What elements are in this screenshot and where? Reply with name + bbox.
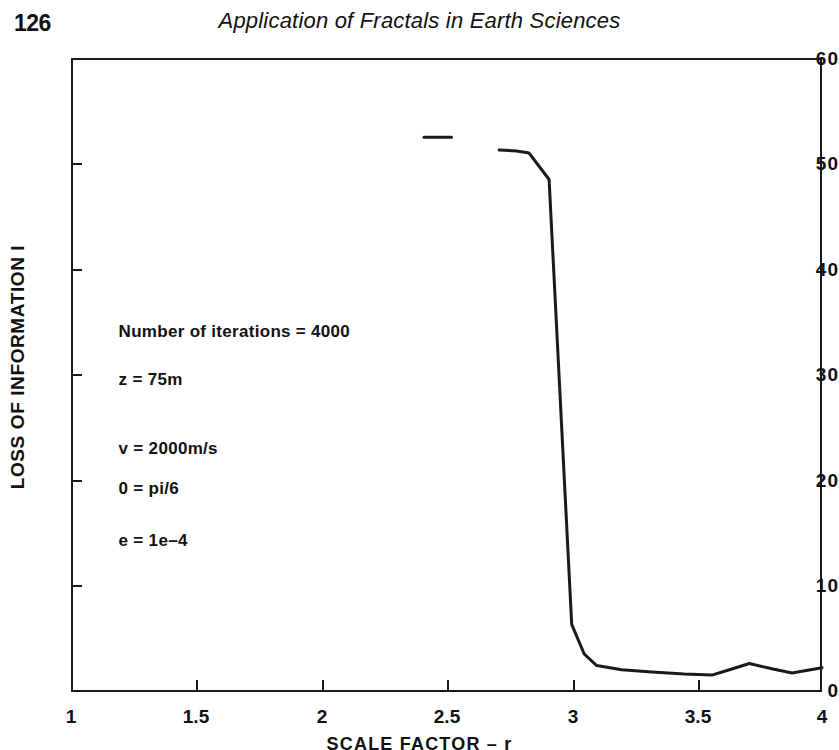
annotation-v: v = 2000m/s xyxy=(119,439,218,459)
y-tick-label-40: 40 xyxy=(793,259,839,281)
page-canvas: 126 Application of Fractals in Earth Sci… xyxy=(0,0,839,750)
annotation-z: z = 75m xyxy=(119,370,183,390)
x-tick-label-3-5: 3.5 xyxy=(668,706,728,728)
x-tick-mark-1-5 xyxy=(196,680,198,691)
annotation-epsilon: e = 1e–4 xyxy=(119,531,188,551)
y-tick-label-10: 10 xyxy=(793,575,839,597)
running-header: 126 Application of Fractals in Earth Sci… xyxy=(0,0,839,46)
y-tick-label-30: 30 xyxy=(793,364,839,386)
book-title: Application of Fractals in Earth Science… xyxy=(0,8,839,34)
x-axis-title: SCALE FACTOR – r xyxy=(0,734,839,750)
x-tick-mark-2 xyxy=(322,680,324,691)
x-tick-label-1-5: 1.5 xyxy=(166,706,226,728)
y-tick-label-0: 0 xyxy=(793,680,839,702)
annotation-iterations: Number of iterations = 4000 xyxy=(119,322,351,342)
x-tick-label-2-5: 2.5 xyxy=(417,706,477,728)
y-tick-mark-30 xyxy=(71,374,82,376)
annotation-theta: 0 = pi/6 xyxy=(119,479,180,499)
x-tick-mark-2-5 xyxy=(447,680,449,691)
y-tick-mark-10 xyxy=(71,585,82,587)
y-tick-mark-40 xyxy=(71,269,82,271)
y-tick-label-60: 60 xyxy=(793,48,839,70)
x-tick-label-3: 3 xyxy=(543,706,603,728)
y-tick-label-20: 20 xyxy=(793,470,839,492)
chart-figure: LOSS OF INFORMATION I 60 50 40 30 20 10 … xyxy=(0,46,839,750)
y-axis-title: LOSS OF INFORMATION I xyxy=(7,137,29,597)
x-tick-label-2: 2 xyxy=(292,706,352,728)
x-tick-mark-3-5 xyxy=(698,680,700,691)
y-tick-label-50: 50 xyxy=(793,153,839,175)
plot-frame xyxy=(71,58,822,692)
x-tick-label-1: 1 xyxy=(41,706,101,728)
x-tick-label-4: 4 xyxy=(792,706,839,728)
y-tick-mark-20 xyxy=(71,480,82,482)
y-tick-mark-50 xyxy=(71,163,82,165)
x-tick-mark-3 xyxy=(573,680,575,691)
